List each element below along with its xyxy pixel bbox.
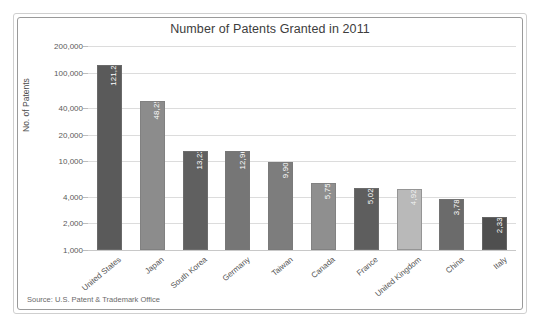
- bar-value-label: 3,785: [452, 199, 461, 215]
- source-note: Source: U.S. Patent & Trademark Office: [27, 295, 160, 304]
- plot-area: 200,000100,00040,00020,00010,0004,0002,0…: [88, 46, 516, 250]
- bar-value-label: 2,333: [495, 217, 504, 233]
- y-axis-tick-label: 40,000: [59, 104, 83, 113]
- bar-value-label: 4,924: [409, 189, 418, 205]
- y-axis-tick-label: 1,000: [63, 246, 83, 255]
- chart-title: Number of Patents Granted in 2011: [17, 22, 523, 36]
- y-axis-tick-label: 100,000: [54, 68, 83, 77]
- y-axis-tick-label: 20,000: [59, 130, 83, 139]
- y-axis-tick-label: 2,000: [63, 219, 83, 228]
- y-axis-tick-label: 200,000: [54, 42, 83, 51]
- bar-value-label: 121,261: [109, 65, 118, 86]
- bar-taiwan[interactable]: 9,907: [268, 162, 293, 250]
- y-axis-tick-label: 10,000: [59, 157, 83, 166]
- y-axis-tick-mark: [83, 108, 88, 109]
- y-axis-tick-mark: [83, 197, 88, 198]
- y-axis-tick-mark: [83, 73, 88, 74]
- bar-japan[interactable]: 48,256: [140, 101, 165, 250]
- gridline: [88, 46, 516, 47]
- bar-united-kingdom[interactable]: 4,924: [397, 189, 422, 250]
- bar-china[interactable]: 3,785: [439, 199, 464, 250]
- y-axis-title: No. of Patents: [21, 52, 31, 132]
- bar-germany[interactable]: 12,968: [225, 151, 250, 250]
- y-axis-tick-mark: [83, 135, 88, 136]
- bar-south-korea[interactable]: 13,239: [183, 151, 208, 251]
- y-axis-tick-label: 4,000: [63, 192, 83, 201]
- bar-france[interactable]: 5,022: [354, 188, 379, 250]
- gridline: [88, 73, 516, 74]
- chart-page: Number of Patents Granted in 2011 No. of…: [0, 0, 542, 332]
- bar-italy[interactable]: 2,333: [482, 217, 507, 250]
- bar-united-states[interactable]: 121,261: [97, 65, 122, 250]
- gridline: [88, 250, 516, 251]
- bar-value-label: 5,754: [323, 183, 332, 199]
- bar-value-label: 9,907: [281, 162, 290, 178]
- bar-value-label: 13,239: [195, 151, 204, 170]
- y-axis-tick-mark: [83, 250, 88, 251]
- bar-value-label: 12,968: [238, 151, 247, 170]
- bar-value-label: 5,022: [366, 188, 375, 204]
- y-axis-tick-mark: [83, 161, 88, 162]
- bar-value-label: 48,256: [152, 101, 161, 120]
- y-axis-tick-mark: [83, 46, 88, 47]
- bar-canada[interactable]: 5,754: [311, 183, 336, 250]
- y-axis-tick-mark: [83, 223, 88, 224]
